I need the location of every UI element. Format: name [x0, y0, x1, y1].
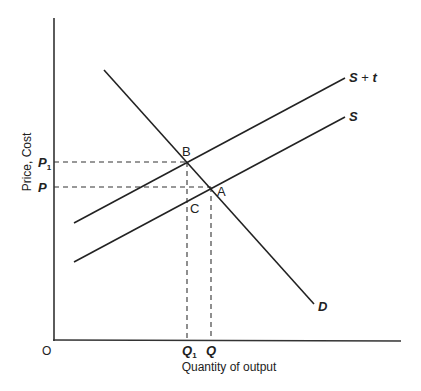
curve-label-d: D — [318, 299, 328, 314]
y-tick-p1: P1 — [38, 155, 52, 172]
x-tick-q1: Q1 — [182, 343, 197, 360]
supply-curve — [74, 117, 345, 262]
curve-label-s: S — [349, 109, 358, 124]
x-axis — [53, 340, 401, 341]
point-label-a: A — [217, 184, 226, 199]
origin-label: O — [42, 344, 51, 358]
x-tick-q: Q — [206, 343, 216, 358]
tax-incidence-chart: S + t S D B A C P1 P Q1 Q O Quantity of … — [0, 0, 421, 391]
x-axis-title: Quantity of output — [182, 360, 277, 374]
point-label-b: B — [182, 144, 191, 159]
curve-label-s-plus-t: S + t — [349, 70, 378, 85]
y-tick-p: P — [38, 180, 47, 195]
y-axis-title: Price, Cost — [20, 132, 34, 191]
supply-plus-tax-curve — [74, 78, 345, 223]
point-label-c: C — [190, 201, 199, 216]
